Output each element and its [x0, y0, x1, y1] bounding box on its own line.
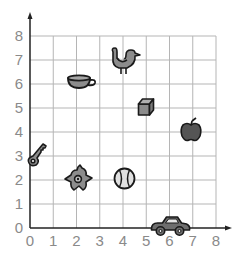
svg-text:7: 7	[189, 232, 197, 249]
cup-icon	[68, 75, 95, 88]
svg-text:1: 1	[15, 195, 23, 212]
svg-text:8: 8	[212, 232, 220, 249]
svg-text:0: 0	[15, 219, 23, 236]
y-axis-arrow-icon	[28, 12, 33, 19]
x-axis-arrow-icon	[225, 226, 232, 231]
svg-text:1: 1	[49, 232, 57, 249]
svg-text:0: 0	[26, 232, 34, 249]
x-tick-labels: 0 1 2 3 4 5 6 7 8	[26, 232, 220, 249]
flower-icon	[65, 165, 92, 190]
ball-icon	[115, 169, 135, 189]
svg-text:2: 2	[72, 232, 80, 249]
coordinate-grid: 0 1 2 3 4 5 6 7 8 0 1 2 3 4 5 6 7 8	[0, 0, 245, 259]
svg-text:6: 6	[165, 232, 173, 249]
svg-text:2: 2	[15, 171, 23, 188]
y-tick-labels: 0 1 2 3 4 5 6 7 8	[15, 27, 23, 236]
apple-icon	[181, 118, 201, 141]
svg-text:5: 5	[15, 99, 23, 116]
axes	[28, 12, 233, 231]
svg-text:5: 5	[142, 232, 150, 249]
svg-text:4: 4	[15, 123, 23, 140]
svg-text:8: 8	[15, 27, 23, 44]
cube-icon	[139, 99, 154, 115]
bird-icon	[112, 48, 140, 74]
key-icon	[28, 144, 46, 166]
svg-text:4: 4	[119, 232, 127, 249]
svg-text:3: 3	[15, 147, 23, 164]
svg-text:6: 6	[15, 75, 23, 92]
svg-text:7: 7	[15, 51, 23, 68]
svg-text:3: 3	[96, 232, 104, 249]
